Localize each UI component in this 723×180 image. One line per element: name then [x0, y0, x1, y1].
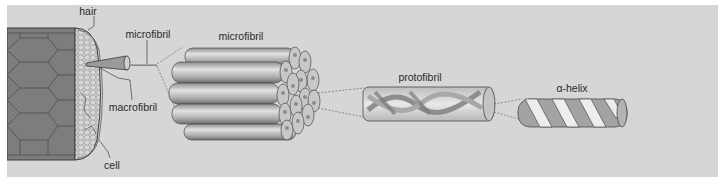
microfibril-bundle	[169, 47, 320, 140]
label-alpha-helix: α-helix	[556, 83, 587, 94]
label-microfibril-bundle: microfibril	[219, 31, 264, 42]
label-hair: hair	[79, 6, 97, 17]
protofibril-tube	[363, 87, 495, 121]
label-microfibril-small: microfibril	[126, 29, 171, 40]
hair-structure-illustration	[7, 5, 718, 177]
label-macrofibril: macrofibril	[109, 102, 157, 113]
diagram-panel	[7, 5, 718, 177]
zoom-lines-2	[318, 88, 364, 117]
label-protofibril: protofibril	[398, 72, 441, 83]
label-cell: cell	[104, 160, 120, 171]
alpha-helix-shape	[518, 99, 627, 127]
hair-shaft	[7, 28, 103, 160]
